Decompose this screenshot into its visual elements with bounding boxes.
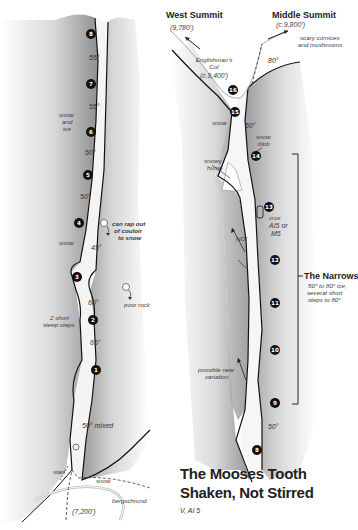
svg-text:Englishman's: Englishman's bbox=[196, 56, 233, 63]
svg-text:2 short: 2 short bbox=[49, 314, 69, 321]
pitch-marker: 13 bbox=[264, 202, 274, 212]
svg-text:50°: 50° bbox=[268, 423, 279, 430]
route-title: Shaken, Not Stirred bbox=[180, 484, 314, 501]
svg-text:AI5 or: AI5 or bbox=[268, 222, 288, 229]
svg-text:and mushrooms: and mushrooms bbox=[298, 41, 342, 48]
svg-text:snow: snow bbox=[59, 239, 74, 246]
svg-text:snowy: snowy bbox=[204, 157, 222, 164]
svg-text:1: 1 bbox=[94, 367, 98, 373]
svg-text:50°: 50° bbox=[85, 149, 96, 156]
svg-text:65°: 65° bbox=[90, 339, 101, 346]
svg-text:3: 3 bbox=[75, 274, 79, 280]
pitch-marker: 8 bbox=[252, 445, 262, 455]
svg-text:(7,200'): (7,200') bbox=[72, 508, 96, 516]
middle-summit-elevation: (c.9,800') bbox=[276, 21, 305, 29]
pitch-marker: 9 bbox=[270, 398, 280, 408]
svg-text:start: start bbox=[53, 468, 65, 475]
svg-text:and: and bbox=[62, 118, 73, 125]
narrows-label: The Narrows 50° to 80° ice, several shor… bbox=[304, 271, 358, 303]
svg-text:50° to 80° ice,: 50° to 80° ice, bbox=[308, 282, 347, 289]
svg-text:15: 15 bbox=[231, 109, 239, 115]
svg-text:steps to 80°: steps to 80° bbox=[308, 296, 341, 303]
svg-text:ice: ice bbox=[63, 125, 71, 132]
svg-text:snow: snow bbox=[59, 111, 74, 118]
svg-text:7: 7 bbox=[89, 81, 93, 87]
pitch-marker: 10 bbox=[270, 345, 280, 355]
poor-rock-anchor-icon bbox=[123, 284, 130, 291]
svg-text:4: 4 bbox=[77, 220, 81, 226]
svg-text:12: 12 bbox=[271, 257, 279, 263]
west-summit-elevation: (9,780') bbox=[170, 24, 194, 32]
svg-text:9: 9 bbox=[273, 400, 277, 406]
pitch-marker: 14 bbox=[251, 151, 261, 161]
svg-text:Col: Col bbox=[209, 63, 219, 70]
svg-text:variation: variation bbox=[205, 373, 229, 380]
svg-text:55°: 55° bbox=[89, 103, 100, 110]
svg-text:snow: snow bbox=[256, 133, 271, 140]
svg-text:11: 11 bbox=[271, 300, 279, 306]
svg-text:5: 5 bbox=[86, 172, 90, 178]
svg-text:several short: several short bbox=[307, 289, 343, 296]
svg-text:14: 14 bbox=[252, 153, 260, 159]
topo-diagram: 8 7 6 5 4 3 2 1 55° 55° 50° 50° 45° 60° … bbox=[0, 0, 358, 530]
svg-text:60°: 60° bbox=[88, 299, 99, 306]
svg-text:snow: snow bbox=[212, 119, 227, 126]
svg-text:50° mixed: 50° mixed bbox=[82, 422, 114, 429]
peak-title: The Mooses Tooth bbox=[180, 465, 307, 482]
svg-text:blob: blob bbox=[258, 140, 270, 147]
svg-text:scary cornices: scary cornices bbox=[300, 34, 340, 41]
svg-text:NO!: NO! bbox=[236, 235, 247, 242]
svg-text:of couloir: of couloir bbox=[114, 227, 143, 234]
svg-text:80°: 80° bbox=[268, 57, 279, 64]
svg-text:(c.9,400'): (c.9,400') bbox=[200, 72, 228, 80]
svg-text:bergschrund: bergschrund bbox=[112, 497, 147, 504]
svg-text:crux: crux bbox=[269, 214, 282, 221]
pitch-marker: 4 bbox=[74, 218, 84, 228]
svg-text:2: 2 bbox=[91, 317, 95, 323]
svg-text:50°: 50° bbox=[80, 193, 91, 200]
svg-text:to snow: to snow bbox=[118, 234, 143, 241]
svg-text:16: 16 bbox=[229, 87, 237, 93]
middle-summit-name: Middle Summit bbox=[272, 10, 336, 20]
pitch-marker: 16 bbox=[228, 85, 238, 95]
svg-text:8: 8 bbox=[89, 31, 93, 37]
svg-text:possible new: possible new bbox=[197, 366, 234, 373]
pitch-marker: 8 bbox=[86, 29, 96, 39]
pitch-marker: 11 bbox=[270, 298, 280, 308]
pitch-marker: 2 bbox=[88, 315, 98, 325]
svg-text:6: 6 bbox=[89, 129, 93, 135]
route-grade: V, AI 5 bbox=[180, 507, 200, 514]
svg-text:45°: 45° bbox=[91, 244, 102, 251]
svg-text:The Narrows: The Narrows bbox=[304, 271, 358, 281]
right-topo bbox=[170, 30, 316, 482]
pitch-marker: 6 bbox=[86, 127, 96, 137]
svg-text:M5: M5 bbox=[271, 230, 281, 237]
svg-text:snow: snow bbox=[96, 477, 111, 484]
svg-text:13: 13 bbox=[265, 204, 273, 210]
pitch-marker: 3 bbox=[72, 272, 82, 282]
pitch-marker: 1 bbox=[91, 365, 101, 375]
svg-text:steep steps: steep steps bbox=[43, 321, 75, 328]
pitch-marker: 15 bbox=[230, 107, 240, 117]
summit-labels: West Summit (9,780') Middle Summit (c.9,… bbox=[166, 10, 336, 32]
svg-text:55°: 55° bbox=[89, 54, 100, 61]
svg-text:8: 8 bbox=[255, 447, 259, 453]
svg-text:10: 10 bbox=[271, 347, 279, 353]
left-topo bbox=[0, 14, 150, 525]
svg-text:50°: 50° bbox=[245, 122, 256, 129]
rap-anchor-icon bbox=[101, 220, 108, 227]
svg-text:poor rock: poor rock bbox=[123, 301, 151, 308]
svg-text:hump: hump bbox=[207, 164, 223, 171]
pitch-marker: 12 bbox=[270, 255, 280, 265]
svg-text:can rap out: can rap out bbox=[112, 220, 146, 227]
pitch-marker: 5 bbox=[83, 170, 93, 180]
west-summit-name: West Summit bbox=[166, 10, 223, 20]
pitch-marker: 7 bbox=[86, 79, 96, 89]
